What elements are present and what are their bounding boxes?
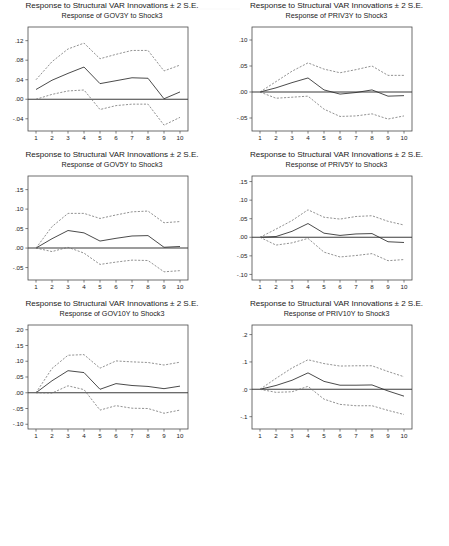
y-axis-tick-label: .00 <box>15 389 24 396</box>
x-axis-tick-label: 10 <box>177 283 184 290</box>
y-axis-tick-label: .10 <box>15 205 24 212</box>
irf-confidence-band-line <box>36 247 180 272</box>
irf-confidence-band-line <box>260 92 404 119</box>
y-axis-tick-label: -.05 <box>13 264 24 271</box>
y-axis-tick-label: .1 <box>242 358 248 365</box>
x-axis-tick-label: 4 <box>306 432 310 439</box>
panel-supertitle: Response to Structural VAR Innovations ±… <box>0 298 224 309</box>
irf-confidence-band-line <box>260 360 404 390</box>
panel-supertitle: Response to Structural VAR Innovations ±… <box>0 0 224 11</box>
y-axis-tick-label: .2 <box>242 331 248 338</box>
y-axis-tick-label: .00 <box>239 233 248 240</box>
y-axis-tick-label: .08 <box>15 56 24 63</box>
x-axis-tick-label: 6 <box>114 283 118 290</box>
x-axis-tick-label: 2 <box>50 432 54 439</box>
panel-subtitle: Response of PRIV10Y to Shock3 <box>224 309 449 319</box>
x-axis-tick-label: 2 <box>50 283 54 290</box>
panel-supertitle: Response to Structural VAR Innovations ±… <box>224 298 449 309</box>
panel-gov3y: Response to Structural VAR Innovations ±… <box>0 0 224 149</box>
plot-area-gov3y: .12.08.04.00-.0412345678910 <box>0 21 224 149</box>
plot-area-gov10y: .20.15.10.05.00-.05-.1012345678910 <box>0 319 224 447</box>
y-axis-tick-label: .10 <box>239 196 248 203</box>
irf-confidence-band-line <box>36 355 180 393</box>
y-axis-tick-label: .15 <box>15 186 24 193</box>
x-axis-tick-label: 5 <box>322 134 326 141</box>
y-axis-tick-label: .05 <box>15 373 24 380</box>
x-axis-tick-label: 7 <box>130 134 134 141</box>
x-axis-tick-label: 10 <box>401 134 408 141</box>
panel-supertitle: Response to Structural VAR Innovations ±… <box>0 149 224 160</box>
plot-area-priv10y: .2.1.0-.112345678910 <box>224 319 449 447</box>
panel-priv10y: Response to Structural VAR Innovations ±… <box>224 298 449 447</box>
y-axis-tick-label: .00 <box>15 95 24 102</box>
x-axis-tick-label: 8 <box>370 134 374 141</box>
x-axis-tick-label: 1 <box>34 134 38 141</box>
x-axis-tick-label: 8 <box>370 283 374 290</box>
x-axis-tick-label: 7 <box>130 283 134 290</box>
panel-subtitle: Response of PRIV5Y to Shock3 <box>224 160 449 170</box>
y-axis-tick-label: .05 <box>239 215 248 222</box>
x-axis-tick-label: 2 <box>274 432 278 439</box>
x-axis-tick-label: 5 <box>322 432 326 439</box>
x-axis-tick-label: 10 <box>177 134 184 141</box>
irf-confidence-band-line <box>36 43 180 80</box>
irf-response-line <box>260 78 404 96</box>
y-axis-tick-label: .05 <box>239 62 248 69</box>
y-axis-tick-label: -.10 <box>13 420 24 427</box>
x-axis-tick-label: 3 <box>66 283 70 290</box>
irf-response-line <box>36 371 180 393</box>
panel-gov10y: Response to Structural VAR Innovations ±… <box>0 298 224 447</box>
x-axis-tick-label: 2 <box>274 283 278 290</box>
x-axis-tick-label: 8 <box>146 432 150 439</box>
irf-confidence-band-line <box>260 63 404 92</box>
panel-row-5y: Response to Structural VAR Innovations ±… <box>0 149 449 298</box>
x-axis-tick-label: 5 <box>98 134 102 141</box>
y-axis-tick-label: .15 <box>239 178 248 185</box>
figure-sheet: Response to Structural VAR Innovations ±… <box>0 0 449 546</box>
plot-area-priv5y: .15.10.05.00-.05-.1012345678910 <box>224 170 449 298</box>
panel-subtitle: Response of GOV10Y to Shock3 <box>0 309 224 319</box>
y-axis-tick-label: -.1 <box>240 413 248 420</box>
x-axis-tick-label: 7 <box>354 283 358 290</box>
x-axis-tick-label: 4 <box>82 283 86 290</box>
x-axis-tick-label: 1 <box>258 432 262 439</box>
y-axis-tick-label: .00 <box>239 88 248 95</box>
x-axis-tick-label: 1 <box>34 283 38 290</box>
x-axis-tick-label: 9 <box>162 283 166 290</box>
y-axis-tick-label: -.05 <box>237 252 248 259</box>
panel-gov5y: Response to Structural VAR Innovations ±… <box>0 149 224 298</box>
irf-confidence-band-line <box>36 386 180 413</box>
irf-response-line <box>36 67 180 99</box>
y-axis-tick-label: .12 <box>15 37 24 44</box>
y-axis-tick-label: .00 <box>15 244 24 251</box>
x-axis-tick-label: 4 <box>306 134 310 141</box>
x-axis-tick-label: 3 <box>66 134 70 141</box>
panel-row-3y: Response to Structural VAR Innovations ±… <box>0 0 449 149</box>
plot-area-priv3y: .10.05.00-.0512345678910 <box>224 21 449 149</box>
plot-area-gov5y: .15.10.05.00-.0512345678910 <box>0 170 224 298</box>
x-axis-tick-label: 10 <box>401 432 408 439</box>
x-axis-tick-label: 5 <box>98 432 102 439</box>
x-axis-tick-label: 4 <box>306 283 310 290</box>
x-axis-tick-label: 1 <box>258 283 262 290</box>
x-axis-tick-label: 7 <box>354 432 358 439</box>
y-axis-tick-label: -.10 <box>237 271 248 278</box>
x-axis-tick-label: 9 <box>386 432 390 439</box>
x-axis-tick-label: 1 <box>34 432 38 439</box>
y-axis-tick-label: -.04 <box>13 115 24 122</box>
panel-subtitle: Response of GOV3Y to Shock3 <box>0 11 224 21</box>
y-axis-tick-label: .05 <box>15 225 24 232</box>
x-axis-tick-label: 6 <box>114 432 118 439</box>
x-axis-tick-label: 9 <box>162 432 166 439</box>
x-axis-tick-label: 8 <box>146 283 150 290</box>
panel-subtitle: Response of GOV5Y to Shock3 <box>0 160 224 170</box>
panel-supertitle: Response to Structural VAR Innovations ±… <box>224 149 449 160</box>
y-axis-tick-label: .10 <box>239 36 248 43</box>
x-axis-tick-label: 7 <box>354 134 358 141</box>
y-axis-tick-label: -.05 <box>237 114 248 121</box>
panel-priv3y: Response to Structural VAR Innovations ±… <box>224 0 449 149</box>
x-axis-tick-label: 9 <box>386 134 390 141</box>
irf-confidence-band-line <box>260 386 404 414</box>
x-axis-tick-label: 6 <box>338 134 342 141</box>
panel-priv5y: Response to Structural VAR Innovations ±… <box>224 149 449 298</box>
